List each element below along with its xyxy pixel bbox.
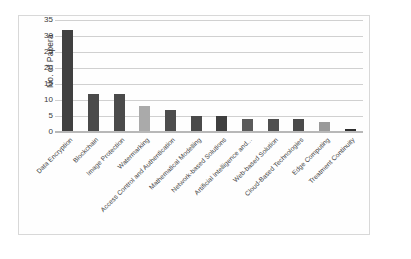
y-axis-tick-label: 10 (33, 96, 53, 104)
x-label-slot: Data Encryption (55, 134, 81, 232)
bar-series (55, 20, 363, 132)
bar-slot (158, 20, 184, 132)
bar-slot (209, 20, 235, 132)
x-axis-tick-labels: Data EncryptionBlockchainImage Protectio… (55, 134, 363, 232)
bar-slot (106, 20, 132, 132)
x-label-slot: Treatment Continuity (337, 134, 363, 232)
bar-slot (337, 20, 363, 132)
y-axis-tick-label: 5 (33, 112, 53, 120)
y-axis-tick-label: 25 (33, 48, 53, 56)
x-axis-tick-label: Data Encryption (35, 136, 74, 175)
bar-slot (312, 20, 338, 132)
y-axis-tick-labels: 35302520151050 (33, 20, 53, 132)
bar-slot (132, 20, 158, 132)
bar (88, 94, 99, 132)
bar (165, 110, 176, 132)
gridline (55, 132, 363, 133)
plot-area (55, 20, 363, 132)
y-axis-tick-label: 15 (33, 80, 53, 88)
bar (216, 116, 227, 132)
y-axis-tick-label: 30 (33, 32, 53, 40)
x-label-slot: Cloud-Based Technologies (286, 134, 312, 232)
bar-slot (183, 20, 209, 132)
y-axis-tick-label: 35 (33, 16, 53, 24)
bar-slot (286, 20, 312, 132)
bar (191, 116, 202, 132)
bar (114, 94, 125, 132)
x-label-slot: Blockchain (81, 134, 107, 232)
chart-frame: No. of Papera 35302520151050 Data Encryp… (18, 15, 370, 235)
x-axis-line (55, 131, 363, 132)
chart-canvas: No. of Papera 35302520151050 Data Encryp… (19, 16, 369, 234)
bar-slot (235, 20, 261, 132)
y-axis-tick-label: 0 (33, 128, 53, 136)
bar-slot (55, 20, 81, 132)
y-axis-tick-label: 20 (33, 64, 53, 72)
bar (139, 106, 150, 132)
x-label-slot: Web-based Solution (260, 134, 286, 232)
bar-slot (81, 20, 107, 132)
bar-slot (260, 20, 286, 132)
x-label-slot: Network-based Solutions (209, 134, 235, 232)
x-label-slot: Edge Computing (312, 134, 338, 232)
bar (62, 30, 73, 132)
